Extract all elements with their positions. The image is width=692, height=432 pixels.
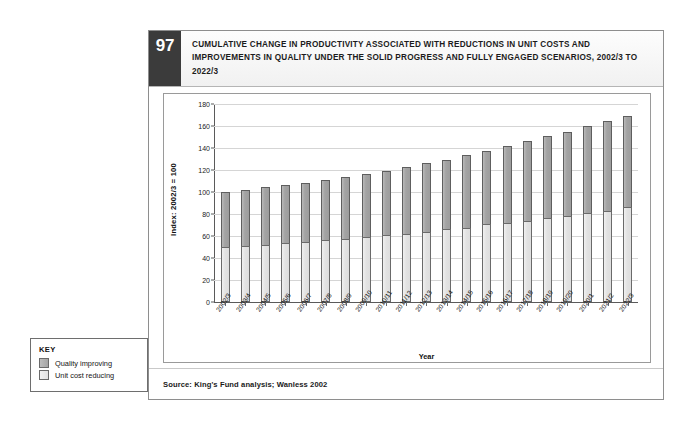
stacked-bar[interactable] <box>442 160 451 302</box>
bar-slot <box>497 104 517 302</box>
bar-segment-quality-improving <box>442 160 451 230</box>
x-label-slot: 2003/4 <box>235 307 255 349</box>
y-tick-mark-140 <box>211 148 214 149</box>
x-axis-labels: 2002/32003/42004/52005/62006/72007/82008… <box>215 307 638 349</box>
bar-slot <box>618 104 638 302</box>
bar-slot <box>557 104 577 302</box>
stacked-bar[interactable] <box>261 187 270 302</box>
stacked-bar[interactable] <box>462 155 471 302</box>
x-label-slot: 2002/3 <box>215 307 235 349</box>
stacked-bar[interactable] <box>341 177 350 302</box>
x-label-slot: 2012/13 <box>416 307 436 349</box>
x-label-slot: 2011/12 <box>396 307 416 349</box>
legend-item-unit-cost-reducing: Unit cost reducing <box>39 370 140 380</box>
source-divider <box>149 368 663 369</box>
bar-slot <box>215 104 235 302</box>
bar-slot <box>336 104 356 302</box>
stacked-bar[interactable] <box>603 121 612 302</box>
bar-slot <box>477 104 497 302</box>
bar-slot <box>316 104 336 302</box>
bar-slot <box>255 104 275 302</box>
x-label-slot: 2007/8 <box>316 307 336 349</box>
bar-segment-quality-improving <box>221 192 230 247</box>
stacked-bar[interactable] <box>362 174 371 302</box>
figure-container: 97 CUMULATIVE CHANGE IN PRODUCTIVITY ASS… <box>148 30 664 400</box>
y-tick-mark-0 <box>211 302 214 303</box>
bar-slot <box>457 104 477 302</box>
y-tick-label-80: 80 <box>202 211 210 218</box>
y-tick-label-40: 40 <box>202 255 210 262</box>
x-label-slot: 2016/17 <box>497 307 517 349</box>
y-tick-mark-40 <box>211 258 214 259</box>
x-label-slot: 2008/9 <box>336 307 356 349</box>
legend-item-quality-improving: Quality improving <box>39 358 140 368</box>
bar-segment-quality-improving <box>321 180 330 241</box>
chart-inner: 020406080100120140160180 2002/32003/4200… <box>180 104 642 362</box>
stacked-bar[interactable] <box>623 116 632 302</box>
bar-slot <box>235 104 255 302</box>
bar-segment-quality-improving <box>563 132 572 216</box>
legend-label-unit-cost-reducing: Unit cost reducing <box>55 371 114 380</box>
figure-number-badge: 97 <box>149 31 181 86</box>
bar-slot <box>396 104 416 302</box>
bar-slot <box>416 104 436 302</box>
bar-slot <box>537 104 557 302</box>
y-tick-label-0: 0 <box>206 299 210 306</box>
stacked-bar[interactable] <box>422 163 431 302</box>
x-label-slot: 2005/6 <box>275 307 295 349</box>
stacked-bar[interactable] <box>583 126 592 302</box>
y-tick-label-180: 180 <box>198 101 210 108</box>
y-tick-mark-100 <box>211 192 214 193</box>
stacked-bar[interactable] <box>221 192 230 302</box>
stacked-bar[interactable] <box>523 141 532 302</box>
stacked-bar[interactable] <box>482 151 491 302</box>
y-tick-mark-160 <box>211 126 214 127</box>
bar-segment-quality-improving <box>382 171 391 235</box>
x-label-slot: 2018/19 <box>537 307 557 349</box>
bar-segment-quality-improving <box>583 126 592 213</box>
stacked-bar[interactable] <box>503 146 512 302</box>
x-label-slot: 2014/15 <box>457 307 477 349</box>
bar-slot <box>356 104 376 302</box>
bar-segment-quality-improving <box>241 190 250 246</box>
y-tick-label-140: 140 <box>198 145 210 152</box>
x-label-slot: 2010/11 <box>376 307 396 349</box>
bar-segment-quality-improving <box>341 177 350 239</box>
y-tick-label-120: 120 <box>198 167 210 174</box>
bar-segment-quality-improving <box>503 146 512 223</box>
x-label-slot: 2021/2 <box>598 307 618 349</box>
stacked-bar[interactable] <box>382 171 391 302</box>
y-tick-mark-20 <box>211 280 214 281</box>
stacked-bar[interactable] <box>563 132 572 302</box>
x-label-slot: 2013/14 <box>437 307 457 349</box>
bar-slot <box>275 104 295 302</box>
legend-label-quality-improving: Quality improving <box>55 359 112 368</box>
figure-header: 97 CUMULATIVE CHANGE IN PRODUCTIVITY ASS… <box>149 31 663 87</box>
stacked-bar[interactable] <box>402 167 411 302</box>
bar-segment-unit-cost-reducing <box>603 211 612 302</box>
bar-slot <box>598 104 618 302</box>
figure-title: CUMULATIVE CHANGE IN PRODUCTIVITY ASSOCI… <box>181 31 663 86</box>
bar-slot <box>376 104 396 302</box>
bar-slot <box>296 104 316 302</box>
bar-segment-quality-improving <box>462 155 471 228</box>
x-label-slot: 2020/1 <box>578 307 598 349</box>
stacked-bar[interactable] <box>301 183 310 302</box>
stacked-bar[interactable] <box>281 185 290 302</box>
bar-slot <box>578 104 598 302</box>
legend-key-box: KEY Quality improving Unit cost reducing <box>30 338 148 392</box>
figure-source: Source: King's Fund analysis; Wanless 20… <box>163 380 327 389</box>
stacked-bar[interactable] <box>321 180 330 302</box>
y-tick-mark-120 <box>211 170 214 171</box>
x-label-slot: 2017/18 <box>517 307 537 349</box>
bar-segment-quality-improving <box>623 116 632 208</box>
legend-title: KEY <box>39 345 140 354</box>
bar-segment-quality-improving <box>523 141 532 221</box>
stacked-bar[interactable] <box>241 190 250 302</box>
x-label-slot: 2019/20 <box>557 307 577 349</box>
y-axis-title: Index: 2002/3 = 100 <box>166 94 180 304</box>
stacked-bar[interactable] <box>543 136 552 302</box>
x-label-slot: 2022/3 <box>618 307 638 349</box>
y-tick-mark-80 <box>211 214 214 215</box>
y-tick-label-100: 100 <box>198 189 210 196</box>
